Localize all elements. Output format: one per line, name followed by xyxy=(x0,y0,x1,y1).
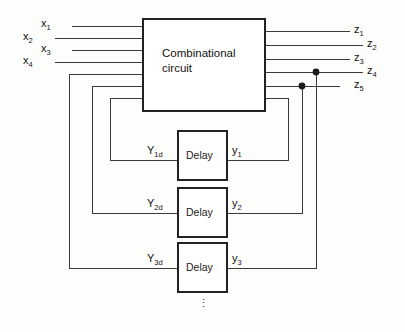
output-label-z3: z3 xyxy=(354,52,364,63)
junction-dot-z4 xyxy=(313,69,320,76)
signal-label-y3d-sub: 3d xyxy=(154,258,162,267)
output-label-z5-text: z xyxy=(354,78,360,90)
junction-dot-z5 xyxy=(299,83,306,90)
output-label-z1: z1 xyxy=(354,24,364,35)
output-label-z5: z5 xyxy=(354,79,364,90)
diagram-root: Combinational circuit x1 x2 x3 x4 z1 z2 … xyxy=(0,0,405,332)
input-label-x2-text: x xyxy=(23,30,29,42)
output-label-z4: z4 xyxy=(367,65,377,76)
input-label-x1-text: x xyxy=(41,17,47,29)
input-label-x2-sub: 2 xyxy=(29,36,33,45)
input-label-x3: x3 xyxy=(41,43,51,54)
output-label-z3-sub: 3 xyxy=(360,57,364,66)
output-label-z2-sub: 2 xyxy=(373,43,377,52)
signal-label-y1d: Y1d xyxy=(147,145,163,156)
signal-label-y2-text: y xyxy=(232,197,238,209)
input-label-x4-text: x xyxy=(23,54,29,66)
signal-label-y2: y2 xyxy=(232,198,242,209)
output-label-z5-sub: 5 xyxy=(360,84,364,93)
signal-label-y2d-sub: 2d xyxy=(154,203,162,212)
input-label-x1: x1 xyxy=(41,18,51,29)
delay-box-3-label: Delay xyxy=(186,262,213,273)
input-label-x4-sub: 4 xyxy=(29,60,33,69)
signal-label-y1-text: y xyxy=(232,144,238,156)
output-label-z1-sub: 1 xyxy=(360,29,364,38)
continuation-ellipsis: ⋮ xyxy=(196,300,210,307)
signal-label-y2-sub: 2 xyxy=(238,203,242,212)
signal-label-y1: y1 xyxy=(232,145,242,156)
delay-box-2-label: Delay xyxy=(186,207,213,218)
output-label-z4-sub: 4 xyxy=(373,70,377,79)
signal-label-y3-text: y xyxy=(232,252,238,264)
signal-label-y3d: Y3d xyxy=(147,253,163,264)
signal-label-y2d: Y2d xyxy=(147,198,163,209)
signal-label-y1-sub: 1 xyxy=(238,150,242,159)
combinational-circuit-label-line2: circuit xyxy=(162,61,192,75)
input-label-x2: x2 xyxy=(23,31,33,42)
signal-label-y3-sub: 3 xyxy=(238,258,242,267)
signal-label-y3: y3 xyxy=(232,253,242,264)
signal-label-y1d-sub: 1d xyxy=(154,150,162,159)
output-label-z1-text: z xyxy=(354,23,360,35)
input-label-x3-text: x xyxy=(41,42,47,54)
input-label-x1-sub: 1 xyxy=(47,23,51,32)
delay-box-1-label: Delay xyxy=(186,150,213,161)
output-label-z3-text: z xyxy=(354,51,360,63)
combinational-circuit-label-line1: Combinational xyxy=(162,46,236,60)
input-label-x4: x4 xyxy=(23,55,33,66)
output-label-z4-text: z xyxy=(367,64,373,76)
output-label-z2-text: z xyxy=(367,37,373,49)
input-label-x3-sub: 3 xyxy=(47,48,51,57)
output-label-z2: z2 xyxy=(367,38,377,49)
